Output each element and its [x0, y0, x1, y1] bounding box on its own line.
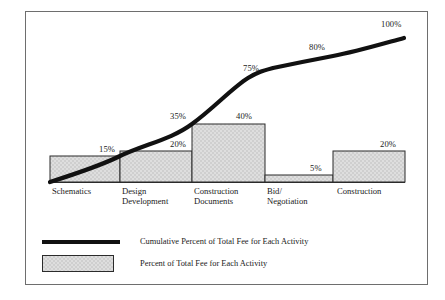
category-label-construction: Construction: [337, 187, 381, 197]
category-label-schematics: Schematics: [52, 187, 91, 197]
category-label-construction-documents-line2: Documents: [194, 197, 233, 207]
legend-label-percent: Percent of Total Fee for Each Activity: [140, 259, 267, 268]
legend-swatch-box-icon: [42, 255, 114, 272]
bar-construction-documents: [192, 124, 265, 182]
label-bar-schematics-pct: 15%: [99, 145, 115, 155]
label-bar-construction-pct: 20%: [380, 140, 396, 150]
label-bar-bid-negotiation-pct: 5%: [310, 164, 322, 174]
label-bar-construction-documents-pct: 40%: [236, 112, 252, 122]
label-cum-construction-pct: 80%: [309, 43, 325, 53]
category-label-bid-negotiation-line2: Negotiation: [267, 197, 308, 207]
bar-design-development: [120, 151, 192, 182]
bar-bid-negotiation: [265, 175, 333, 182]
bar-construction: [333, 151, 405, 182]
legend-label-cumulative: Cumulative Percent of Total Fee for Each…: [140, 237, 308, 246]
label-cum-end-pct: 100%: [381, 20, 401, 30]
label-cum-bid-negotiation-pct: 75%: [243, 64, 259, 74]
legend-swatch-line-icon: [42, 240, 120, 244]
chart-figure: 15% 20% 35% 40% 75% 5% 80% 20% 100% Sche…: [0, 0, 445, 300]
label-cum-construction-documents-pct: 35%: [170, 112, 186, 122]
label-bar-design-development-pct: 20%: [170, 140, 186, 150]
category-label-design-development-line2: Development: [122, 197, 168, 207]
